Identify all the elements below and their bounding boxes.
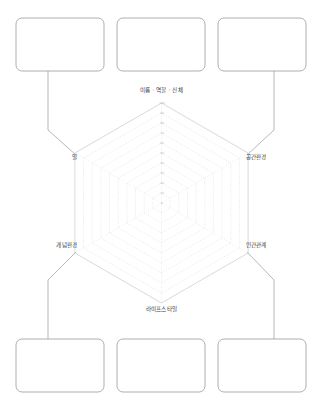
note-bottom-center-frame[interactable] xyxy=(117,339,205,392)
axis-top: 이름 · 역할 · 신체 xyxy=(140,86,182,94)
radar-tick-label-10: 10 xyxy=(160,191,164,195)
axis-upper-right: 공간환경 xyxy=(246,153,267,160)
connector-bottom-left xyxy=(48,252,76,339)
radar-tick-label-20: 20 xyxy=(160,181,164,185)
axis-lower-left: 개념환경 xyxy=(56,241,77,249)
radar-tick-labels: 0102030405060708090100 xyxy=(159,101,165,205)
radar-tick-label-30: 30 xyxy=(160,171,164,175)
axis-bottom: 라이프스타일 xyxy=(146,305,177,313)
radar-tick-label-100: 100 xyxy=(159,101,165,105)
radar-tick-label-80: 80 xyxy=(160,121,164,125)
note-bottom-left-frame[interactable] xyxy=(16,339,104,392)
note-bottom-left[interactable] xyxy=(16,339,104,392)
hexagon-radar-diagram: 0102030405060708090100 이름 · 역할 · 신체공간환경인… xyxy=(0,0,323,416)
radar-tick-label-50: 50 xyxy=(160,151,164,155)
worksheet-page: 0102030405060708090100 이름 · 역할 · 신체공간환경인… xyxy=(0,0,323,416)
radar-tick-label-70: 70 xyxy=(160,131,164,135)
connector-top-right xyxy=(247,71,274,155)
note-bottom-center[interactable] xyxy=(117,339,205,392)
note-bottom-right[interactable] xyxy=(218,339,306,392)
note-top-right[interactable] xyxy=(218,18,306,71)
axis-lower-right: 인간관계 xyxy=(246,241,267,249)
connector-bottom-right xyxy=(247,252,274,339)
note-top-left-frame[interactable] xyxy=(16,18,104,71)
axis-label-group: 이름 · 역할 · 신체공간환경인간관계라이프스타일개념환경일 xyxy=(56,86,266,313)
radar-tick-label-60: 60 xyxy=(160,141,164,145)
radar-tick-label-0: 0 xyxy=(161,201,163,205)
radar-tick-label-40: 40 xyxy=(160,161,164,165)
radar-tick-label-90: 90 xyxy=(160,111,164,115)
note-top-right-frame[interactable] xyxy=(218,18,306,71)
axis-upper-left: 일 xyxy=(72,153,77,160)
note-top-center-frame[interactable] xyxy=(117,18,205,71)
note-top-center[interactable] xyxy=(117,18,205,71)
note-bottom-right-frame[interactable] xyxy=(218,339,306,392)
note-top-left[interactable] xyxy=(16,18,104,71)
connector-top-left xyxy=(48,71,76,155)
